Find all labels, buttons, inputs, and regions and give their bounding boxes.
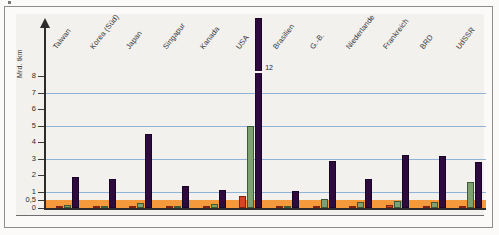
bar	[423, 206, 430, 208]
bar	[239, 196, 246, 208]
bar	[365, 179, 372, 208]
bar	[313, 206, 320, 208]
bar	[394, 201, 401, 208]
bar	[219, 190, 226, 208]
chart-figure: 00,512345678 Mrd. tkm 12 TaiwanKorea (Sü…	[0, 0, 499, 235]
bar	[386, 205, 393, 208]
bar	[72, 177, 79, 208]
bar	[402, 155, 409, 208]
bar	[467, 182, 474, 208]
bar	[93, 206, 100, 208]
bar	[321, 199, 328, 208]
bar	[255, 18, 262, 208]
bar	[166, 206, 173, 208]
axis-break-marker	[254, 71, 263, 73]
bar	[101, 206, 108, 208]
bar	[64, 205, 71, 208]
bar	[137, 203, 144, 208]
bar	[211, 204, 218, 208]
bar	[439, 156, 446, 208]
bar	[247, 126, 254, 209]
bar	[349, 206, 356, 208]
bar	[129, 206, 136, 208]
bar	[431, 202, 438, 208]
bar	[109, 179, 116, 208]
bar-value-label: 12	[265, 64, 273, 71]
bar	[174, 206, 181, 208]
bar	[276, 206, 283, 208]
bar	[284, 206, 291, 208]
bar	[145, 134, 152, 208]
bar	[459, 206, 466, 208]
bar	[329, 161, 336, 208]
bar	[56, 206, 63, 208]
bar	[292, 191, 299, 208]
bar	[357, 202, 364, 208]
bar	[203, 206, 210, 208]
bar	[182, 186, 189, 208]
bar	[475, 162, 482, 208]
